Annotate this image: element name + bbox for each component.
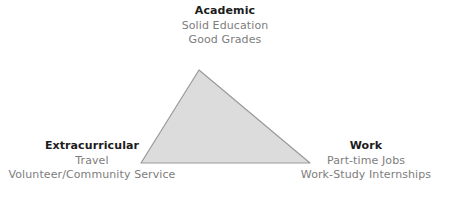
corner-title-academic: Academic	[182, 5, 269, 16]
corner-label-extracurricular: Extracurricular Travel Volunteer/Communi…	[9, 140, 176, 180]
diagram-canvas: Academic Solid Education Good Grades Ext…	[0, 0, 450, 211]
corner-item-academic-1: Good Grades	[182, 34, 269, 45]
corner-label-academic: Academic Solid Education Good Grades	[182, 5, 269, 45]
corner-item-work-0: Part-time Jobs	[301, 155, 431, 166]
corner-item-academic-0: Solid Education	[182, 20, 269, 31]
corner-item-extracurricular-0: Travel	[9, 155, 176, 166]
corner-item-work-1: Work-Study Internships	[301, 169, 431, 180]
corner-item-extracurricular-1: Volunteer/Community Service	[9, 169, 176, 180]
corner-title-extracurricular: Extracurricular	[9, 140, 176, 151]
corner-title-work: Work	[301, 140, 431, 151]
corner-label-work: Work Part-time Jobs Work-Study Internshi…	[301, 140, 431, 180]
